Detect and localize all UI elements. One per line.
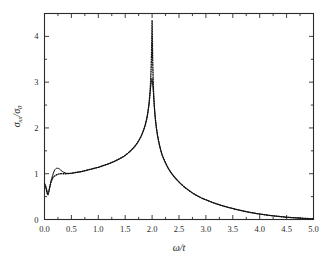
y-tick-label: 2 (34, 123, 38, 133)
x-tick-label: 2.0 (147, 224, 158, 234)
x-tick-label: 1.0 (93, 224, 104, 234)
x-tick-label: 1.5 (120, 224, 131, 234)
x-axis-title: ω/t (173, 242, 186, 253)
figure-container: 0.00.51.01.52.02.53.03.54.04.55.0 01234 … (0, 0, 331, 263)
y-tick-label: 3 (34, 77, 38, 87)
x-tick-label: 3.5 (227, 224, 238, 234)
y-tick-label: 1 (34, 169, 38, 179)
x-tick-label: 4.0 (254, 224, 265, 234)
x-tick-label: 4.5 (281, 224, 292, 234)
x-tick-label: 0.5 (66, 224, 77, 234)
y-tick-label: 0 (34, 215, 38, 225)
x-axis-title-text: ω/t (173, 242, 186, 253)
x-tick-label: 0.0 (39, 224, 50, 234)
conductivity-plot: 0.00.51.01.52.02.53.03.54.04.55.0 01234 … (0, 0, 331, 263)
x-tick-label: 3.0 (201, 224, 212, 234)
x-tick-label: 2.5 (174, 224, 185, 234)
x-tick-label: 5.0 (308, 224, 319, 234)
